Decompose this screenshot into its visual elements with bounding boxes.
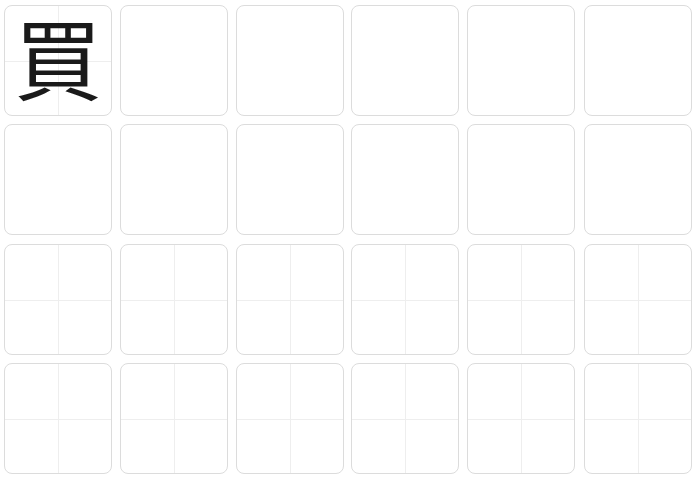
practice-cell[interactable]: [467, 124, 575, 235]
practice-cell[interactable]: [236, 244, 344, 355]
horizontal-guide-line: [5, 300, 111, 301]
horizontal-guide-line: [121, 300, 227, 301]
sample-character: 買: [5, 6, 111, 115]
practice-cell[interactable]: [351, 363, 459, 474]
horizontal-guide-line: [237, 419, 343, 420]
practice-cell[interactable]: [236, 124, 344, 235]
practice-cell[interactable]: [120, 124, 228, 235]
horizontal-guide-line: [352, 300, 458, 301]
practice-cell[interactable]: [351, 124, 459, 235]
practice-cell[interactable]: [467, 363, 575, 474]
horizontal-guide-line: [5, 419, 111, 420]
practice-cell[interactable]: [584, 124, 692, 235]
horizontal-guide-line: [352, 419, 458, 420]
practice-cell[interactable]: [351, 5, 459, 116]
practice-cell[interactable]: [584, 363, 692, 474]
practice-cell[interactable]: [584, 5, 692, 116]
practice-cell[interactable]: [467, 5, 575, 116]
horizontal-guide-line: [585, 300, 691, 301]
horizontal-guide-line: [468, 300, 574, 301]
practice-cell[interactable]: [584, 244, 692, 355]
practice-cell-sample[interactable]: 買: [4, 5, 112, 116]
practice-cell[interactable]: [4, 124, 112, 235]
practice-cell[interactable]: [120, 244, 228, 355]
practice-cell[interactable]: [236, 5, 344, 116]
practice-cell[interactable]: [351, 244, 459, 355]
practice-cell[interactable]: [4, 244, 112, 355]
practice-cell[interactable]: [467, 244, 575, 355]
horizontal-guide-line: [121, 419, 227, 420]
horizontal-guide-line: [237, 300, 343, 301]
practice-cell[interactable]: [120, 5, 228, 116]
horizontal-guide-line: [468, 419, 574, 420]
practice-cell[interactable]: [120, 363, 228, 474]
practice-cell[interactable]: [4, 363, 112, 474]
practice-cell[interactable]: [236, 363, 344, 474]
horizontal-guide-line: [585, 419, 691, 420]
practice-sheet: 買: [0, 0, 697, 477]
